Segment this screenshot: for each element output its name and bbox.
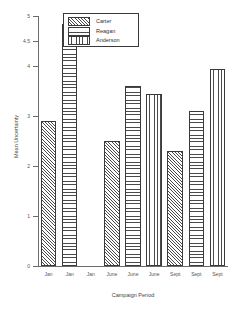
bar-reagan-sept xyxy=(189,111,205,266)
y-axis-title: Mean Uncertainty xyxy=(13,87,20,187)
x-axis-title: Campaign Period xyxy=(38,292,228,299)
y-tick-label: 5 xyxy=(0,14,30,19)
y-tick-mark xyxy=(33,266,38,267)
y-tick-label: 0 xyxy=(0,264,30,269)
x-tick-label: Sept xyxy=(204,271,230,277)
x-axis-line xyxy=(38,266,228,267)
legend-label: Anderson xyxy=(96,37,120,44)
bar-carter-june xyxy=(104,141,120,266)
bar-chart: 012344.55 JanJanJanJuneJuneJuneSeptSeptS… xyxy=(0,0,241,318)
legend: CarterReaganAnderson xyxy=(63,13,139,47)
y-tick-label: 1 xyxy=(0,214,30,219)
legend-label: Reagan xyxy=(96,28,115,35)
legend-label: Carter xyxy=(96,18,111,25)
bar-carter-sept xyxy=(167,151,183,266)
bar-anderson-sept xyxy=(210,69,226,267)
bar-reagan-jan xyxy=(62,24,78,267)
legend-swatch-anderson xyxy=(68,36,90,45)
bar-carter-jan xyxy=(41,121,57,266)
bar-anderson-june xyxy=(146,94,162,267)
legend-swatch-carter xyxy=(68,17,90,26)
bar-reagan-june xyxy=(125,86,141,266)
y-tick-label: 4.5 xyxy=(0,39,30,44)
legend-swatch-reagan xyxy=(68,27,90,36)
y-tick-label: 4 xyxy=(0,64,30,69)
plot-area xyxy=(38,16,228,266)
